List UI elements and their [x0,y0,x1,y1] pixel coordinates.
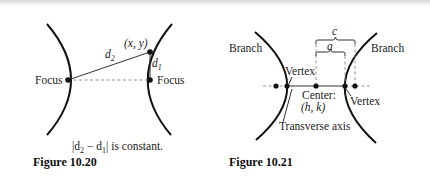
left-focus-dot [273,83,278,88]
right-vertex-dot [342,83,347,88]
figure-10-21-caption: Figure 10.21 [229,155,293,169]
center-dot [313,83,318,88]
figure-10-20-caption: Figure 10.20 [33,155,97,169]
d1-label: d1 [152,57,162,72]
left-vertex-label: Vertex [285,65,315,77]
left-focus-label: Focus [35,74,63,86]
figure-10-21: c a Branch Branch Vertex Vertex Center: … [229,25,404,169]
left-focus-dot [65,77,71,83]
c-label: c [332,25,337,37]
transverse-axis-label: Transverse axis [279,120,351,132]
right-branch-label: Branch [371,42,404,54]
d2-label: d2 [105,48,115,63]
right-vertex-label: Vertex [350,95,380,107]
left-branch-label: Branch [229,42,262,54]
figure-10-20: Focus Focus (x, y) d2 d1 |d2 − d1| is co… [33,24,185,169]
center-coords-label: (h, k) [301,101,325,114]
center-label: Center: [302,89,336,101]
a-label: a [327,40,333,52]
figures-canvas: Focus Focus (x, y) d2 d1 |d2 − d1| is co… [0,0,430,178]
point-xy-dot [147,49,153,55]
constant-difference-note: |d2 − d1| is constant. [72,140,163,155]
point-xy-label: (x, y) [124,37,148,50]
brace-c [316,37,355,44]
right-focus-dot [352,83,357,88]
left-vertex-dot [284,83,289,88]
right-focus-dot [147,77,153,83]
right-focus-label: Focus [157,74,185,86]
left-vertex-leader [289,77,292,84]
